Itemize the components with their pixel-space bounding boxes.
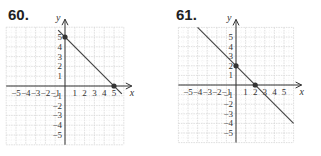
x-tick-label: 4 bbox=[272, 87, 277, 97]
x-axis-label: x bbox=[299, 86, 305, 97]
y-tick-label: 3 bbox=[58, 52, 63, 62]
y-tick-label: −1 bbox=[52, 91, 62, 101]
y-tick-label: 2 bbox=[58, 61, 63, 71]
intercept-point bbox=[233, 63, 238, 68]
x-tick-label: −5 bbox=[11, 88, 21, 98]
intercept-point bbox=[62, 34, 67, 39]
x-tick-label: 3 bbox=[92, 88, 97, 98]
x-tick-label: 1 bbox=[73, 88, 78, 98]
x-tick-label: −5 bbox=[183, 87, 193, 97]
x-tick-label: 2 bbox=[82, 88, 87, 98]
x-tick-label: 1 bbox=[243, 87, 248, 97]
intercept-point bbox=[253, 82, 258, 87]
x-tick-label: −4 bbox=[21, 88, 31, 98]
x-tick-label: −4 bbox=[193, 87, 203, 97]
y-tick-label: −3 bbox=[52, 110, 62, 120]
coordinate-plane: xy−5−4−3−2−11234554321−1−2−3−4−5 bbox=[160, 0, 321, 156]
y-tick-label: 4 bbox=[229, 42, 234, 52]
y-tick-label: −5 bbox=[223, 128, 233, 138]
coordinate-plane: xy−5−4−3−2−11234554321−1−2−3−4−5 bbox=[0, 0, 160, 156]
y-tick-label: −5 bbox=[52, 130, 62, 140]
y-tick-label: −4 bbox=[52, 120, 62, 130]
y-tick-label: 4 bbox=[58, 42, 63, 52]
x-tick-label: −3 bbox=[202, 87, 212, 97]
y-tick-label: −2 bbox=[223, 99, 233, 109]
graph-panel-60: 60. xy−5−4−3−2−11234554321−1−2−3−4−5 bbox=[0, 0, 160, 156]
y-tick-label: 5 bbox=[229, 32, 234, 42]
y-tick-label: −4 bbox=[223, 118, 233, 128]
y-axis-label: y bbox=[55, 12, 61, 23]
x-axis-label: x bbox=[129, 87, 135, 98]
y-axis-label: y bbox=[226, 12, 232, 23]
y-tick-label: −1 bbox=[223, 90, 233, 100]
x-tick-label: 5 bbox=[282, 87, 287, 97]
intercept-point bbox=[111, 83, 116, 88]
x-tick-label: −3 bbox=[31, 88, 41, 98]
x-tick-label: −2 bbox=[212, 87, 222, 97]
y-tick-label: −3 bbox=[223, 109, 233, 119]
y-tick-label: −2 bbox=[52, 101, 62, 111]
y-tick-label: 1 bbox=[58, 71, 63, 81]
y-tick-label: 1 bbox=[229, 70, 234, 80]
x-tick-label: 4 bbox=[102, 88, 107, 98]
x-tick-label: −2 bbox=[41, 88, 51, 98]
x-tick-label: 5 bbox=[112, 88, 117, 98]
x-tick-label: 2 bbox=[253, 87, 258, 97]
graph-panel-61: 61. xy−5−4−3−2−11234554321−1−2−3−4−5 bbox=[160, 0, 320, 156]
